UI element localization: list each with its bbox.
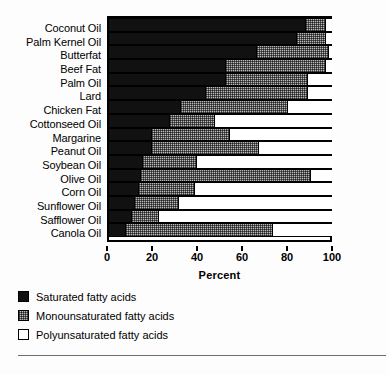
bar-segment-polyunsaturated [307,87,332,99]
bar-segment-monounsaturated [296,33,325,45]
plot-area: Coconut OilPalm Kernel OilButterfatBeef … [0,10,388,242]
bar-segment-monounsaturated [256,46,327,58]
legend-label: Monounsaturated fatty acids [36,310,174,322]
x-axis-tick-label: 0 [104,251,110,263]
bar-segment-saturated [109,129,151,141]
bar-segment-monounsaturated [138,183,194,195]
bar-segment-monounsaturated [151,142,258,154]
bar-segment-monounsaturated [125,224,272,236]
bar-row [109,182,332,196]
bar-segment-saturated [109,19,305,31]
bar-segment-saturated [109,197,134,209]
y-axis-label: Margarine [0,132,103,146]
y-axis-label: Corn Oil [0,186,103,200]
bar-segment-saturated [109,115,169,127]
legend-item: Polyunsaturated fatty acids [18,325,318,344]
y-axis-label: Sunflower Oil [0,200,103,214]
bar-row [109,196,332,210]
bar-row [109,128,332,142]
bar-segment-polyunsaturated [287,101,332,113]
y-axis-label: Butterfat [0,49,103,63]
bar-segment-saturated [109,101,180,113]
bar-segment-monounsaturated [180,101,287,113]
stacked-bars [109,18,332,240]
bar-segment-polyunsaturated [328,46,332,58]
bar-segment-saturated [109,224,125,236]
bar-segment-monounsaturated [142,156,196,168]
bar-segment-monounsaturated [305,19,325,31]
bar-row [109,141,332,155]
bar-segment-monounsaturated [225,74,308,86]
legend-item: Saturated fatty acids [18,287,318,306]
y-axis-label: Chicken Fat [0,104,103,118]
bar-row [109,169,332,183]
bar-segment-polyunsaturated [272,224,332,236]
y-axis-label: Beef Fat [0,63,103,77]
legend-item: Monounsaturated fatty acids [18,306,318,325]
y-axis-label: Cottonseed Oil [0,118,103,132]
bar-segment-polyunsaturated [196,156,332,168]
bar-segment-polyunsaturated [258,142,332,154]
x-axis-tick-label: 60 [236,251,248,263]
bar-row [109,32,332,46]
x-axis-tick-label: 100 [323,251,341,263]
bar-row [109,210,332,224]
bar-segment-saturated [109,156,142,168]
y-axis-label: Soybean Oil [0,159,103,173]
bar-segment-saturated [109,183,138,195]
y-axis-label: Coconut Oil [0,22,103,36]
bar-segment-polyunsaturated [325,19,332,31]
y-axis-label: Olive Oil [0,173,103,187]
bar-segment-polyunsaturated [307,74,332,86]
y-axis-label: Peanut Oil [0,145,103,159]
bar-segment-monounsaturated [134,197,179,209]
bar-segment-polyunsaturated [310,170,332,182]
bar-segment-saturated [109,87,205,99]
bar-segment-polyunsaturated [214,115,332,127]
y-axis-label: Palm Oil [0,77,103,91]
x-axis-tick-label: 80 [281,251,293,263]
bar-row [109,114,332,128]
legend-swatch-icon [18,310,29,321]
bar-segment-polyunsaturated [325,60,332,72]
y-axis-label: Lard [0,90,103,104]
x-axis-title: Percent [107,269,332,281]
bar-segment-saturated [109,33,296,45]
y-axis-category-labels: Coconut OilPalm Kernel OilButterfatBeef … [0,22,103,241]
bar-segment-saturated [109,46,256,58]
legend-label: Polyunsaturated fatty acids [36,329,168,341]
bar-segment-polyunsaturated [178,197,332,209]
bar-segment-monounsaturated [140,170,309,182]
bar-segment-saturated [109,142,151,154]
bar-row [109,100,332,114]
bar-row [109,155,332,169]
bar-row [109,45,332,59]
bar-row [109,73,332,87]
bar-row [109,59,332,73]
bar-segment-saturated [109,211,131,223]
y-axis-label: Palm Kernel Oil [0,36,103,50]
footer-divider [18,355,386,356]
fatty-acid-composition-chart: Coconut OilPalm Kernel OilButterfatBeef … [0,0,388,374]
bar-segment-polyunsaturated [325,33,332,45]
bar-row [109,223,332,237]
legend-swatch-icon [18,291,29,302]
legend-label: Saturated fatty acids [36,291,136,303]
legend-swatch-icon [18,329,29,340]
y-axis-label: Canola Oil [0,227,103,241]
bar-segment-monounsaturated [131,211,158,223]
x-axis-tick-labels: 020406080100 [107,251,332,265]
x-axis-tick-label: 20 [146,251,158,263]
x-axis-tick-label: 40 [191,251,203,263]
bar-segment-monounsaturated [205,87,308,99]
bar-segment-saturated [109,60,225,72]
bar-segment-polyunsaturated [229,129,332,141]
y-axis-label: Safflower Oil [0,214,103,228]
bar-segment-saturated [109,74,225,86]
bar-row [109,18,332,32]
bar-segment-monounsaturated [169,115,214,127]
bar-segment-polyunsaturated [194,183,332,195]
bar-segment-monounsaturated [225,60,325,72]
bar-segment-saturated [109,170,140,182]
bar-segment-monounsaturated [151,129,229,141]
